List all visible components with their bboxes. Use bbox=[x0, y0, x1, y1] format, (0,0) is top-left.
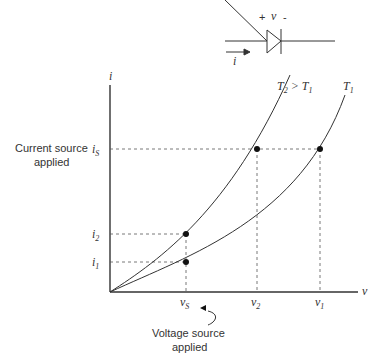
voltage-source-label-1: Voltage source bbox=[152, 327, 225, 339]
voltage-source-arrowhead bbox=[200, 305, 206, 311]
point-is-v1 bbox=[317, 146, 323, 152]
point-is-v2 bbox=[254, 146, 260, 152]
tick-i1: i1 bbox=[92, 255, 99, 271]
diode-current-label: i bbox=[233, 54, 236, 68]
point-vs-i1 bbox=[183, 259, 189, 265]
current-source-label-1: Current source bbox=[15, 142, 88, 154]
label-t1: T1 bbox=[343, 79, 354, 95]
current-arrow-head bbox=[244, 49, 250, 55]
diode-symbol bbox=[225, 0, 335, 55]
tick-v2: v2 bbox=[251, 295, 260, 311]
curve-t2 bbox=[110, 75, 290, 292]
curve-t1 bbox=[110, 95, 345, 292]
tick-vs: vS bbox=[180, 295, 189, 311]
point-vs-i2 bbox=[183, 231, 189, 237]
voltage-source-arrow bbox=[208, 311, 216, 325]
tick-is: iS bbox=[92, 142, 99, 158]
diode-plus: + bbox=[259, 11, 265, 23]
diode-minus: - bbox=[283, 11, 287, 23]
label-t2-gt-t1: T2 > T1 bbox=[277, 79, 312, 95]
voltage-source-label-2: applied bbox=[172, 341, 207, 353]
diode-triangle bbox=[267, 30, 281, 53]
y-axis-label: i bbox=[109, 69, 112, 83]
tick-i2: i2 bbox=[92, 227, 99, 243]
current-source-label-2: applied bbox=[34, 156, 69, 168]
diode-voltage-label: v bbox=[271, 9, 277, 23]
diode-iv-diagram: + v - i i v iS i2 i1 vS v2 v1 T2 > T1 T1… bbox=[0, 0, 377, 356]
x-axis-label: v bbox=[362, 284, 368, 298]
tick-v1: v1 bbox=[315, 295, 324, 311]
